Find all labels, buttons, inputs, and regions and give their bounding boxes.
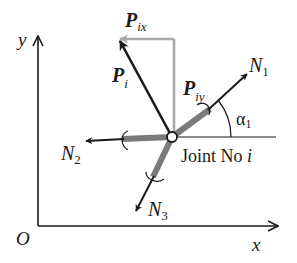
member-2-bar (122, 137, 172, 139)
resultant-load: Pi (111, 41, 172, 137)
x-axis-label: x (251, 234, 261, 255)
y-axis-label: y (16, 29, 27, 50)
force-n1-label: N1 (248, 54, 269, 79)
force-n2-arrow (86, 139, 124, 141)
force-n3-label: N3 (147, 198, 168, 223)
force-n2-label: N2 (60, 142, 81, 167)
joint-force-diagram: y x O α1 Pix Piy N1 (0, 0, 297, 263)
coordinate-axes: y x O (16, 29, 278, 255)
resultant-load-label: Pi (111, 64, 128, 91)
origin-label: O (16, 228, 30, 249)
load-x-component-label: Pix (124, 9, 147, 34)
angle-reference: α1 (172, 100, 276, 137)
joint-label: Joint No i (181, 146, 252, 166)
angle-label: α1 (236, 109, 251, 131)
load-y-component-label: Piy (182, 77, 205, 104)
angle-arc-icon (218, 100, 231, 137)
force-n1-arrow (208, 74, 247, 110)
truss-members (122, 103, 210, 181)
joint-node-icon (167, 132, 177, 142)
member-3-bar (153, 137, 172, 177)
member-1-bar (172, 109, 210, 137)
